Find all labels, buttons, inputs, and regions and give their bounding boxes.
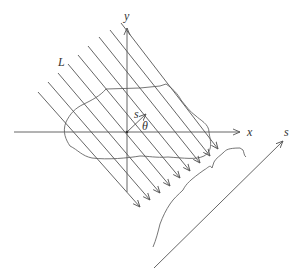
- ray-line: [48, 82, 150, 200]
- ray-line: [78, 55, 180, 178]
- parallel-rays: [38, 23, 218, 207]
- projection-axis-label: s: [284, 125, 289, 139]
- ray-line: [58, 73, 160, 193]
- ray-label: L: [57, 55, 65, 69]
- ray-line: [68, 64, 170, 186]
- ray-line: [110, 30, 210, 156]
- theta-label: θ: [142, 119, 148, 133]
- projection-axis: [154, 141, 283, 268]
- s-vector-label: s: [134, 107, 139, 121]
- ray-line: [88, 46, 190, 171]
- ray-line: [99, 37, 200, 163]
- origin-point: [126, 131, 129, 134]
- diagram-svg: y x L s θ s: [0, 0, 302, 279]
- ray-line: [121, 23, 218, 149]
- radon-projection-diagram: y x L s θ s: [0, 0, 302, 279]
- y-axis-label: y: [123, 9, 130, 23]
- x-axis-label: x: [246, 125, 253, 139]
